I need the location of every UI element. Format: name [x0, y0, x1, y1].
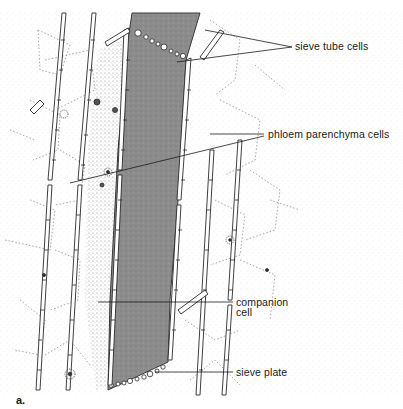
phloem-diagram: sieve tube cells phloem parenchyma cells…	[0, 0, 403, 409]
phloem-illustration	[0, 0, 403, 409]
label-phloem-parenchyma-cells: phloem parenchyma cells	[268, 129, 389, 140]
label-sieve-plate: sieve plate	[236, 367, 287, 378]
label-sieve-tube-cells: sieve tube cells	[295, 41, 368, 52]
panel-label: a.	[16, 394, 25, 406]
label-companion-cell-line2: cell	[236, 307, 252, 318]
